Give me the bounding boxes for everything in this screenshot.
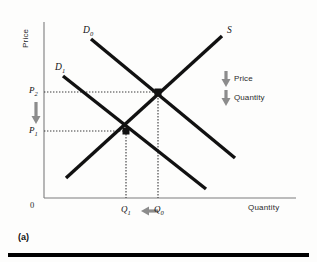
y-axis-title: Price bbox=[22, 29, 30, 48]
quantity-annotation-arrow-icon bbox=[222, 90, 231, 106]
demand-curve-new bbox=[63, 76, 206, 189]
bottom-divider bbox=[8, 253, 309, 257]
supply-label-text: S bbox=[227, 25, 232, 35]
price-tick-p1-sub: 1 bbox=[35, 130, 38, 137]
supply-demand-plot bbox=[0, 0, 317, 262]
x-axis-title: Quantity bbox=[248, 204, 279, 212]
demand-shift-figure: Price Quantity 0 D0 D1 S P2 P1 Q1 Q0 Pri… bbox=[0, 0, 317, 262]
price-annotation-arrow-icon bbox=[222, 71, 231, 87]
equilibrium-marker-new bbox=[123, 128, 130, 135]
price-tick-p1: P1 bbox=[29, 126, 38, 137]
demand-new-label: D1 bbox=[55, 63, 65, 74]
price-axis-arrow-icon bbox=[32, 102, 41, 124]
quantity-annotation-label: Quantity bbox=[234, 94, 265, 102]
demand-original-label-text: D bbox=[83, 25, 90, 35]
supply-label: S bbox=[227, 26, 232, 36]
demand-new-label-sub: 1 bbox=[62, 67, 65, 74]
price-tick-p2: P2 bbox=[29, 86, 38, 97]
demand-curve-original bbox=[91, 39, 235, 158]
price-annotation-label: Price bbox=[234, 75, 253, 83]
quantity-tick-q0-sub: 0 bbox=[161, 209, 164, 216]
demand-new-label-text: D bbox=[55, 62, 62, 72]
quantity-tick-q1-sub: 1 bbox=[128, 209, 131, 216]
demand-original-label: D0 bbox=[83, 26, 93, 37]
price-tick-p2-sub: 2 bbox=[35, 90, 38, 97]
quantity-tick-q0: Q0 bbox=[154, 205, 164, 216]
supply-curve bbox=[66, 36, 222, 178]
demand-original-label-sub: 0 bbox=[90, 30, 93, 37]
origin-label: 0 bbox=[30, 201, 34, 210]
figure-caption: (a) bbox=[18, 232, 29, 242]
equilibrium-marker-original bbox=[155, 89, 162, 96]
quantity-tick-q1: Q1 bbox=[121, 205, 131, 216]
